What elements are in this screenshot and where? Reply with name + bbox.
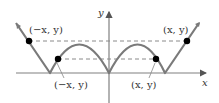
leader-lower-right	[149, 63, 155, 78]
even-function-diagram: x y (−x, y) (x, y) (−x, y) (x, y)	[0, 0, 219, 103]
leader-lower-left	[57, 63, 64, 78]
point-lower-left	[55, 56, 61, 62]
label-upper-left: (−x, y)	[29, 24, 63, 35]
label-upper-right: (x, y)	[163, 24, 189, 35]
label-lower-left: (−x, y)	[54, 79, 88, 90]
point-upper-right	[184, 38, 190, 44]
label-lower-right: (x, y)	[131, 79, 157, 90]
x-axis-label: x	[202, 77, 208, 88]
y-axis-label: y	[97, 7, 104, 18]
point-upper-left	[26, 38, 32, 44]
point-lower-right	[153, 56, 159, 62]
